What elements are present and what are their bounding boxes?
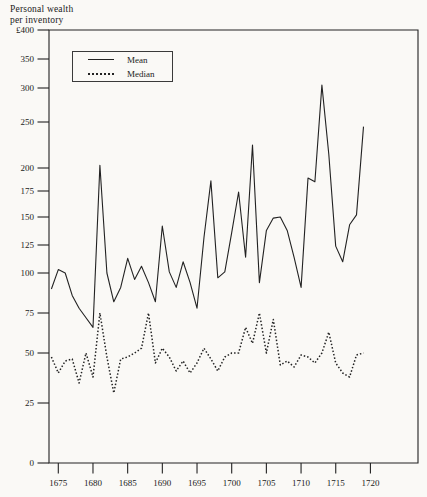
legend-label-median: Median	[127, 69, 155, 79]
y-axis-tick-label: 250	[21, 117, 35, 127]
y-axis-tick-label: 0	[30, 458, 35, 468]
x-axis-tick-label: 1675	[49, 478, 68, 488]
x-axis-tick-label: 1710	[292, 478, 311, 488]
y-axis-tick-label: 150	[21, 212, 35, 222]
mean-series-line	[51, 85, 363, 327]
x-axis-tick-label: 1690	[153, 478, 172, 488]
x-axis-tick-label: 1685	[119, 478, 138, 488]
y-axis-tick-label: 100	[21, 268, 35, 278]
x-axis-tick-label: 1700	[223, 478, 242, 488]
x-axis-tick-label: 1680	[84, 478, 103, 488]
y-axis-tick-label: 200	[21, 163, 35, 173]
plot-border	[49, 30, 418, 463]
y-axis-tick-label: 25	[25, 398, 35, 408]
x-axis-tick-label: 1715	[327, 478, 346, 488]
chart-figure: Personal wealth per inventory £400350300…	[0, 0, 427, 497]
legend-item-mean: Mean	[73, 54, 172, 65]
legend-item-median: Median	[73, 68, 172, 79]
x-axis-tick-label: 1720	[361, 478, 380, 488]
y-axis-tick-label: 175	[21, 186, 35, 196]
mean-line-swatch	[88, 59, 114, 60]
legend-label-mean: Mean	[127, 55, 148, 65]
y-axis-tick-label: 75	[25, 308, 35, 318]
x-axis-tick-label: 1705	[257, 478, 276, 488]
y-axis-tick-label: 50	[25, 348, 35, 358]
y-axis-tick-label: 350	[21, 54, 35, 64]
x-axis-tick-label: 1695	[188, 478, 207, 488]
y-axis-tick-label: 300	[21, 83, 35, 93]
line-chart-canvas: £400350300250200175150125100755025016751…	[0, 0, 427, 497]
median-line-swatch	[88, 73, 114, 75]
y-axis-tick-label: 125	[21, 240, 35, 250]
median-series-line	[51, 313, 363, 393]
legend-box: Mean Median	[72, 51, 173, 82]
y-axis-tick-label: £400	[16, 25, 35, 35]
